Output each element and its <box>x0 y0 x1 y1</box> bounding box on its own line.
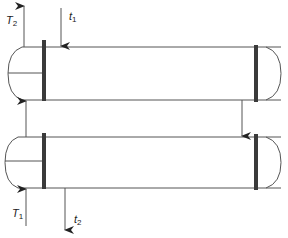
label-t1: t1 <box>69 11 77 24</box>
upper-right-head <box>266 47 281 100</box>
upper-right-tubesheet <box>254 45 258 102</box>
lower-shell <box>5 137 281 188</box>
label-t2: t2 <box>74 214 82 227</box>
lower-left-head <box>5 137 18 188</box>
label-T1: T1 <box>12 208 23 221</box>
lower-right-tubesheet <box>254 134 258 190</box>
label-T2: T2 <box>6 15 17 28</box>
lower-right-head <box>266 137 281 188</box>
upper-left-tubesheet <box>42 40 46 101</box>
heat-exchanger-diagram <box>0 0 288 238</box>
upper-shell <box>8 47 281 100</box>
lower-left-tubesheet <box>42 133 46 189</box>
